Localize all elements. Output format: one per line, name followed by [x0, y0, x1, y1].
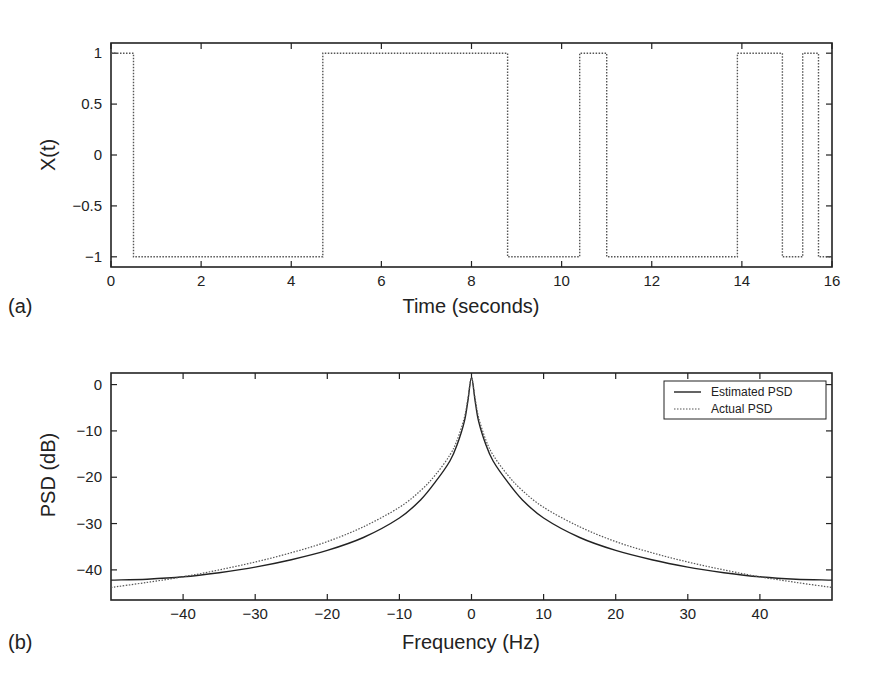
- plot-a-tick-labels: 024681012141610.50−0.5−1: [72, 44, 840, 289]
- x-tick-label: 6: [377, 272, 385, 289]
- x-tick-label: 4: [287, 272, 295, 289]
- plot-a-y-axis-label: X(t): [37, 139, 59, 171]
- panel-label-a: (a): [8, 295, 32, 317]
- y-tick-label: −0.5: [72, 197, 102, 214]
- x-tick-label: 0: [467, 605, 475, 622]
- x-tick-label: 2: [197, 272, 205, 289]
- plot-a-ticks: [111, 43, 832, 267]
- y-tick-label: −1: [85, 248, 102, 265]
- plot-a-signal-line: [111, 53, 832, 257]
- y-tick-label: −40: [77, 561, 102, 578]
- plot-b-y-axis-label: PSD (dB): [37, 433, 59, 517]
- x-tick-label: 40: [752, 605, 769, 622]
- x-tick-label: 12: [643, 272, 660, 289]
- x-tick-label: −10: [387, 605, 412, 622]
- y-tick-label: 0: [94, 146, 102, 163]
- x-tick-label: 30: [679, 605, 696, 622]
- legend-actual-label: Actual PSD: [711, 402, 773, 416]
- panel-label-b: (b): [8, 631, 32, 653]
- legend-estimated-label: Estimated PSD: [711, 385, 793, 399]
- y-tick-label: 1: [94, 44, 102, 61]
- plot-b-x-axis-label: Frequency (Hz): [402, 631, 540, 653]
- x-tick-label: 14: [734, 272, 751, 289]
- x-tick-label: 8: [467, 272, 475, 289]
- x-tick-label: −30: [242, 605, 267, 622]
- x-tick-label: 10: [553, 272, 570, 289]
- plot-a-x-axis-label: Time (seconds): [402, 295, 539, 317]
- x-tick-label: 16: [824, 272, 841, 289]
- y-tick-label: −10: [77, 422, 102, 439]
- legend: Estimated PSD Actual PSD: [664, 381, 826, 419]
- x-tick-label: 20: [607, 605, 624, 622]
- x-tick-label: −20: [315, 605, 340, 622]
- x-tick-label: −40: [170, 605, 195, 622]
- x-tick-label: 0: [107, 272, 115, 289]
- x-tick-label: 10: [535, 605, 552, 622]
- time-series-plot: 024681012141610.50−0.5−1 Time (seconds) …: [8, 43, 840, 317]
- y-tick-label: 0: [94, 376, 102, 393]
- y-tick-label: 0.5: [81, 95, 102, 112]
- y-tick-label: −30: [77, 515, 102, 532]
- figure: 024681012141610.50−0.5−1 Time (seconds) …: [0, 0, 872, 681]
- y-tick-label: −20: [77, 468, 102, 485]
- plot-a-frame: [111, 43, 832, 267]
- psd-plot: −40−30−20−100102030400−10−20−30−40 Estim…: [8, 373, 832, 653]
